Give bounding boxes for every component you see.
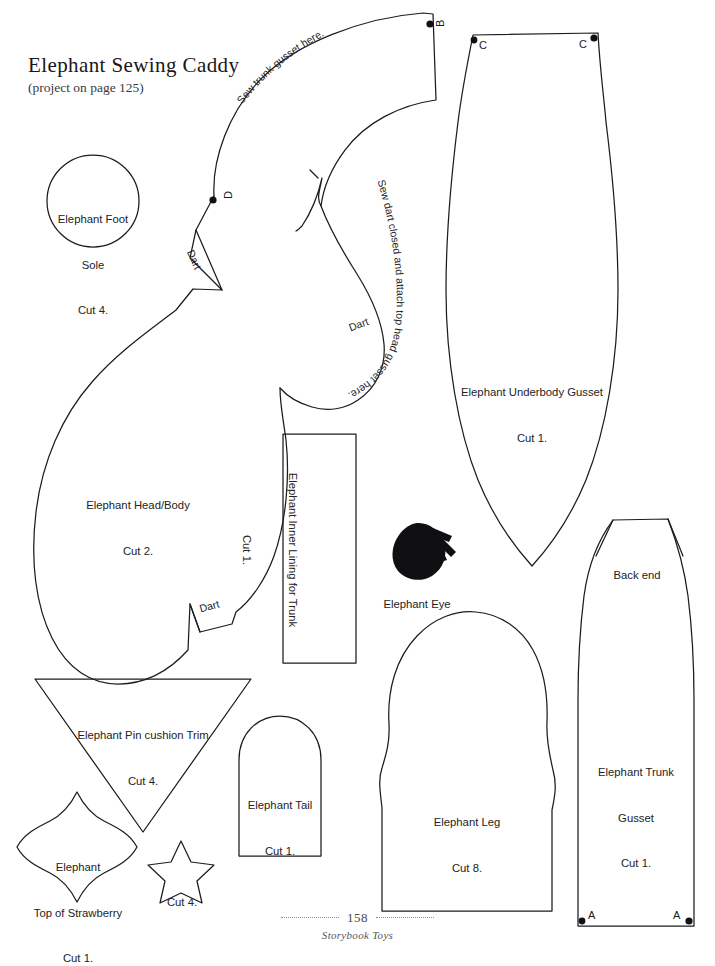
footer-page-number-row: 158 (273, 910, 442, 926)
instruction-head-gusset-text: Sew dart closed and attach top head guss… (346, 178, 406, 402)
page-subtitle: (project on page 125) (28, 79, 144, 96)
label-underbody-gusset-cut: Cut 1. (437, 431, 627, 446)
label-foot-sole-name: Elephant Foot (43, 212, 143, 227)
label-leg: Elephant Leg Cut 8. (407, 785, 527, 906)
label-strawberry-top-cut: Cut 1. (14, 951, 142, 966)
label-underbody-gusset-name: Elephant Underbody Gusset (437, 385, 627, 400)
page-footer: 158 Storybook Toys (0, 908, 715, 941)
label-pin-cushion-trim-cut: Cut 4. (63, 774, 223, 789)
label-trunk-gusset: Elephant Trunk Gusset Cut 1. (576, 735, 696, 901)
footer-page-number: 158 (347, 910, 368, 925)
footer-book-name: Storybook Toys (0, 929, 715, 941)
label-tail: Elephant Tail Cut 1. (240, 768, 320, 889)
label-head-body-name: Elephant Head/Body (58, 498, 218, 513)
label-trunk-gusset-line2: Gusset (576, 811, 696, 826)
label-pin-cushion-trim-name: Elephant Pin cushion Trim (63, 728, 223, 743)
svg-text:Sew dart closed and attach top: Sew dart closed and attach top head guss… (346, 178, 406, 402)
marker-label-c-right: C (579, 37, 587, 51)
label-trunk-gusset-name: Elephant Trunk (576, 765, 696, 780)
label-foot-sole: Elephant Foot Sole Cut 4. (43, 182, 143, 348)
instruction-trunk-gusset: Sew trunk gusset here. (230, 10, 430, 120)
label-eye: Elephant Eye (362, 567, 472, 643)
label-head-body: Elephant Head/Body Cut 2. (58, 468, 218, 589)
label-underbody-gusset: Elephant Underbody Gusset Cut 1. (437, 355, 627, 476)
label-tail-name: Elephant Tail (240, 798, 320, 813)
label-leg-name: Elephant Leg (407, 815, 527, 830)
label-foot-sole-line2: Sole (43, 258, 143, 273)
label-strawberry-top-name: Elephant (14, 860, 142, 875)
label-tail-cut: Cut 1. (240, 844, 320, 859)
marker-label-d: D (221, 191, 235, 199)
svg-text:Sew trunk gusset here.: Sew trunk gusset here. (234, 27, 325, 106)
page-title: Elephant Sewing Caddy (28, 52, 239, 79)
instruction-trunk-gusset-text: Sew trunk gusset here. (234, 27, 325, 106)
marker-label-b: B (433, 20, 447, 27)
marker-label-c-left: C (479, 38, 487, 52)
label-inner-lining: Elephant Inner Lining for Trunk Cut 1. (209, 455, 330, 645)
label-strawberry-top: Elephant Top of Strawberry Cut 1. (14, 830, 142, 966)
marker-dot-c-left (471, 37, 478, 44)
label-inner-lining-name: Elephant Inner Lining for Trunk (285, 455, 300, 645)
marker-dot-d (209, 196, 216, 203)
label-back-end: Back end (596, 538, 678, 614)
footer-rule-right (376, 917, 434, 919)
instruction-head-gusset: Sew dart closed and attach top head guss… (280, 176, 420, 416)
label-inner-lining-cut: Cut 1. (239, 455, 254, 645)
label-trunk-gusset-cut: Cut 1. (576, 856, 696, 871)
label-leg-cut: Cut 8. (407, 861, 527, 876)
piece-underbody-gusset-outline (446, 33, 618, 566)
marker-dot-c-right (590, 34, 597, 41)
label-pin-cushion-trim: Elephant Pin cushion Trim Cut 4. (63, 698, 223, 819)
label-head-body-cut: Cut 2. (58, 544, 218, 559)
label-foot-sole-cut: Cut 4. (43, 303, 143, 318)
footer-rule-left (281, 917, 339, 919)
label-eye-name: Elephant Eye (362, 597, 472, 612)
label-back-end-text: Back end (596, 568, 678, 583)
